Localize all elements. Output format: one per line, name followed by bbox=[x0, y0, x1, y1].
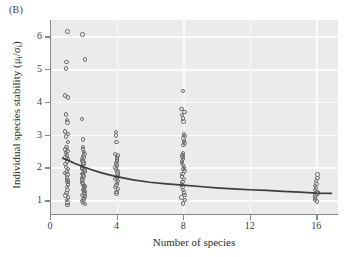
y-tick-label: 2 bbox=[28, 162, 42, 172]
y-tick-mark bbox=[45, 200, 50, 201]
y-axis-title: Individual species stability (μi/σi) bbox=[10, 15, 24, 215]
x-tick-label: 16 bbox=[306, 221, 326, 231]
y-tick-mark bbox=[45, 167, 50, 168]
x-axis-line bbox=[50, 214, 338, 215]
y-tick-label: 4 bbox=[28, 97, 42, 107]
mu-subscript: i bbox=[15, 56, 24, 58]
x-tick-label: 8 bbox=[173, 221, 193, 231]
mu-symbol: μ bbox=[10, 58, 22, 64]
fit-curve-path bbox=[62, 158, 331, 193]
figure-panel-b: (B) 123456 0481216 Number of species Ind… bbox=[0, 0, 359, 257]
y-axis-line bbox=[50, 20, 51, 215]
y-tick-mark bbox=[45, 69, 50, 70]
y-tick-mark bbox=[45, 102, 50, 103]
y-tick-label: 3 bbox=[28, 130, 42, 140]
fit-curve-layer bbox=[50, 20, 338, 215]
x-axis-title: Number of species bbox=[50, 236, 338, 248]
x-tick-label: 12 bbox=[240, 221, 260, 231]
y-tick-mark bbox=[45, 135, 50, 136]
sigma-symbol: σ bbox=[10, 47, 22, 53]
y-tick-label: 1 bbox=[28, 195, 42, 205]
paren-close: ) bbox=[10, 41, 22, 45]
sigma-subscript: i bbox=[15, 45, 24, 47]
y-tick-label: 5 bbox=[28, 64, 42, 74]
panel-label: (B) bbox=[9, 4, 23, 15]
plot-area bbox=[50, 20, 338, 215]
y-tick-mark bbox=[45, 36, 50, 37]
x-tick-label: 0 bbox=[40, 221, 60, 231]
slash-symbol: / bbox=[10, 53, 22, 56]
y-tick-label: 6 bbox=[28, 31, 42, 41]
y-axis-title-text: Individual species stability ( bbox=[10, 64, 22, 188]
x-tick-label: 4 bbox=[107, 221, 127, 231]
